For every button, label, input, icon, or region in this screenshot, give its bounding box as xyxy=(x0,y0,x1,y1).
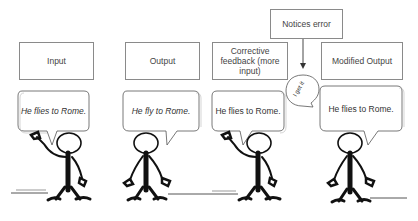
speech-bubble-text-3: He flies to Rome. xyxy=(212,91,284,131)
box-modified-output-label: Modified Output xyxy=(332,56,392,66)
box-output-label: Output xyxy=(150,56,176,66)
stick-figure-2 xyxy=(124,133,170,200)
arrow-down-icon xyxy=(300,39,306,69)
box-modified-output: Modified Output xyxy=(321,42,403,80)
stick-figure-3 xyxy=(222,132,280,200)
speech-bubble-text-4: He flies to Rome. xyxy=(320,86,402,131)
box-corrective-feedback: Corrective feedback (more input) xyxy=(212,42,288,80)
box-notices-error: Notices error xyxy=(270,9,343,39)
box-input: Input xyxy=(19,42,94,80)
speech-bubble-text-2: He fly to Rome. xyxy=(123,91,199,131)
box-output: Output xyxy=(125,42,200,80)
box-corrective-feedback-label: Corrective feedback (more input) xyxy=(217,46,283,76)
box-notices-error-label: Notices error xyxy=(282,19,331,29)
box-input-label: Input xyxy=(47,56,66,66)
speech-bubble-text-1: He flies to Rome. xyxy=(18,91,89,131)
stick-figure-4 xyxy=(328,133,374,202)
